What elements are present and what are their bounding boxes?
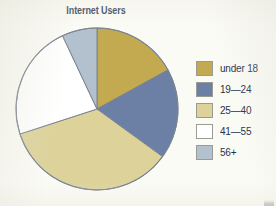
pie-slice-group	[16, 28, 178, 190]
chart-page: Internet Users under 18 19—24 25—40 41—5…	[0, 0, 276, 206]
legend-item-41-55[interactable]: 41—55	[196, 121, 274, 142]
legend-item-under-18[interactable]: under 18	[196, 58, 274, 79]
legend-label: 25—40	[220, 105, 251, 116]
legend-label: 19—24	[220, 84, 251, 95]
legend-label: under 18	[220, 63, 258, 74]
legend-swatch-icon	[196, 103, 213, 118]
legend-swatch-icon	[196, 124, 213, 139]
legend-swatch-icon	[196, 82, 213, 97]
pie-chart-svg	[12, 22, 184, 198]
legend-item-19-24[interactable]: 19—24	[196, 79, 274, 100]
chart-title: Internet Users	[10, 5, 183, 16]
legend-label: 41—55	[220, 126, 251, 137]
legend-item-25-40[interactable]: 25—40	[196, 100, 274, 121]
scan-edge-artifact	[264, 200, 274, 206]
legend-item-56-plus[interactable]: 56+	[196, 142, 274, 163]
legend-swatch-icon	[196, 61, 213, 76]
chart-legend: under 18 19—24 25—40 41—55 56+	[196, 58, 274, 163]
legend-label: 56+	[220, 147, 236, 158]
legend-swatch-icon	[196, 145, 213, 160]
pie-chart	[12, 22, 184, 198]
